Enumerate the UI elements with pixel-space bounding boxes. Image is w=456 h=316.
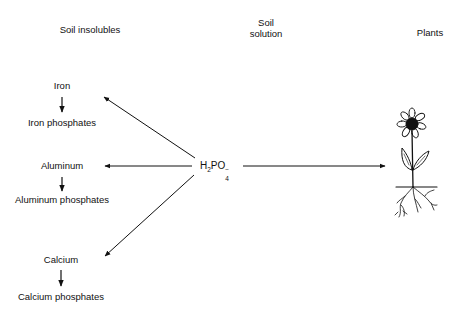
label-iron-phosphates: Iron phosphates	[28, 117, 96, 128]
arrow-to-calcium	[105, 175, 194, 256]
label-aluminum-phosphates: Aluminum phosphates	[15, 194, 109, 205]
diagram-canvas	[0, 0, 456, 316]
header-soil-solution: Soil solution	[250, 17, 283, 39]
label-calcium-phosphates: Calcium phosphates	[18, 291, 104, 302]
arrow-to-iron	[104, 97, 195, 158]
formula-dihydrogen-phosphate: H2PO−4	[200, 160, 231, 175]
header-soil-insolubles: Soil insolubles	[60, 24, 121, 35]
label-iron: Iron	[54, 80, 70, 91]
formula-po: PO	[211, 160, 225, 171]
plant-icon	[395, 108, 437, 217]
formula-sub-4: 4	[225, 173, 229, 184]
header-soil-solution-line2: solution	[250, 28, 283, 39]
label-calcium: Calcium	[44, 254, 78, 265]
header-plants: Plants	[417, 27, 443, 38]
header-soil-solution-line1: Soil	[250, 17, 283, 28]
label-aluminum: Aluminum	[41, 160, 83, 171]
